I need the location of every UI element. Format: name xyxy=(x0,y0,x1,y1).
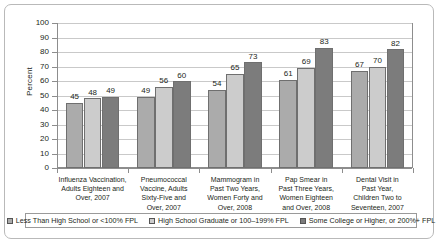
legend-label: High School Graduate or 100–199% FPL xyxy=(158,217,289,225)
y-axis-tick-label: 0 xyxy=(19,164,49,172)
bar-group: 546573 xyxy=(199,23,270,168)
legend-item[interactable]: Some College or Higher, or 200%+ FPL xyxy=(300,217,435,225)
bar xyxy=(279,80,297,168)
y-axis-tick-label: 30 xyxy=(19,121,49,129)
bar xyxy=(137,97,155,168)
chart-figure: Percent 1009080706050403020100 454849495… xyxy=(4,4,434,239)
bar-value-label: 73 xyxy=(240,53,266,61)
bar-group: 677082 xyxy=(342,23,413,168)
x-axis-tick-mark xyxy=(199,168,200,173)
x-axis-label-line: Seventeen, 2007 xyxy=(338,203,417,212)
x-axis-label-line: Influenza Vaccination, xyxy=(53,175,132,184)
y-axis-tick-label: 50 xyxy=(19,92,49,100)
x-axis-tick-mark xyxy=(57,168,58,173)
bar-value-label: 83 xyxy=(311,38,337,46)
gridline xyxy=(58,168,412,169)
bar xyxy=(369,67,387,169)
x-axis-tick-mark xyxy=(271,168,272,173)
x-axis-label-line: Women Forty and xyxy=(195,193,274,202)
x-axis-category-label: Dental Visit inPast Year,Children Two to… xyxy=(338,175,417,212)
bar-group: 495660 xyxy=(128,23,199,168)
legend-swatch-icon xyxy=(300,218,306,224)
bar-value-label: 82 xyxy=(383,40,409,48)
bar xyxy=(66,103,84,168)
x-axis-label-line: Dental Visit in xyxy=(338,175,417,184)
bar-series-container: 454849495660546573616983677082 xyxy=(57,23,413,168)
x-axis-label-line: Mammogram in xyxy=(195,175,274,184)
bar-value-label: 60 xyxy=(169,72,195,80)
x-axis-label-line: Adults Eighteen and xyxy=(53,184,132,193)
legend-item[interactable]: High School Graduate or 100–199% FPL xyxy=(149,217,289,225)
chart-legend: Less Than High School or <100% FPLHigh S… xyxy=(25,213,417,228)
y-axis-tick-label: 90 xyxy=(19,34,49,42)
x-axis-label-line: Past Three Years, xyxy=(267,184,346,193)
bar xyxy=(226,74,244,168)
x-axis-label-line: Pap Smear in xyxy=(267,175,346,184)
y-axis-tick-label: 10 xyxy=(19,150,49,158)
bar xyxy=(208,90,226,168)
x-axis-label-line: Vaccine, Adults xyxy=(124,184,203,193)
x-axis-label-line: Pneumococcal xyxy=(124,175,203,184)
bar xyxy=(102,97,120,168)
x-axis-label-line: Past Year, xyxy=(338,184,417,193)
legend-swatch-icon xyxy=(149,218,155,224)
legend-label: Less Than High School or <100% FPL xyxy=(16,217,138,225)
bar-value-label: 49 xyxy=(98,87,124,95)
bar xyxy=(244,62,262,168)
x-axis-tick-mark xyxy=(413,168,414,173)
legend-swatch-icon xyxy=(7,218,13,224)
x-axis-label-line: Children Two to xyxy=(338,193,417,202)
y-axis-tick-label: 100 xyxy=(19,19,49,27)
bar xyxy=(315,48,333,168)
x-axis-label-line: Over, 2007 xyxy=(124,203,203,212)
y-axis-tick-label: 60 xyxy=(19,77,49,85)
bar-group: 454849 xyxy=(57,23,128,168)
x-axis-tick-mark xyxy=(342,168,343,173)
bar xyxy=(84,98,102,168)
y-axis-tick-label: 20 xyxy=(19,135,49,143)
x-axis-label-line: Women Eighteen xyxy=(267,193,346,202)
bar-group: 616983 xyxy=(271,23,342,168)
x-axis-tick-mark xyxy=(128,168,129,173)
bar xyxy=(173,81,191,168)
x-axis-label-line: and Over, 2008 xyxy=(267,203,346,212)
x-axis-category-label: Pap Smear inPast Three Years,Women Eight… xyxy=(267,175,346,212)
legend-label: Some College or Higher, or 200%+ FPL xyxy=(309,217,435,225)
bar xyxy=(387,49,405,168)
bar xyxy=(297,68,315,168)
x-axis-label-line: Over, 2008 xyxy=(195,203,274,212)
legend-item[interactable]: Less Than High School or <100% FPL xyxy=(7,217,138,225)
bar xyxy=(351,71,369,168)
y-axis-tick-label: 80 xyxy=(19,48,49,56)
y-axis-tick-label: 40 xyxy=(19,106,49,114)
x-axis-label-line: Sixty-Five and xyxy=(124,193,203,202)
x-axis-category-label: Mammogram inPast Two Years,Women Forty a… xyxy=(195,175,274,212)
y-axis-tick-label: 70 xyxy=(19,63,49,71)
bar xyxy=(155,87,173,168)
x-axis-category-label: Influenza Vaccination,Adults Eighteen an… xyxy=(53,175,132,203)
x-axis-label-line: Over, 2007 xyxy=(53,193,132,202)
x-axis-label-line: Past Two Years, xyxy=(195,184,274,193)
x-axis-category-label: PneumococcalVaccine, AdultsSixty-Five an… xyxy=(124,175,203,212)
